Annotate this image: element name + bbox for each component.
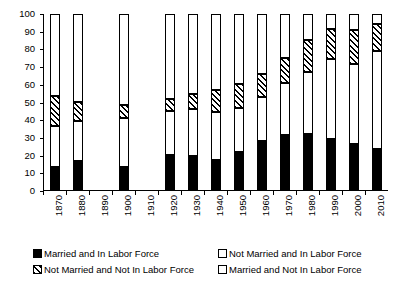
bar-group bbox=[188, 14, 198, 191]
y-axis-tick-mark bbox=[40, 49, 44, 50]
y-axis-tick-label: 50 bbox=[24, 98, 35, 108]
bar-segment bbox=[165, 111, 175, 154]
bar-segment bbox=[234, 84, 244, 108]
y-axis-tick-label: 100 bbox=[19, 9, 35, 19]
y-axis-tick-label: 40 bbox=[24, 115, 35, 125]
bar-segment bbox=[280, 14, 290, 58]
y-axis-tick-mark bbox=[40, 156, 44, 157]
bar-group bbox=[73, 14, 83, 191]
x-axis-tick-mark bbox=[66, 191, 67, 195]
x-axis-tick-label: 1930 bbox=[192, 195, 202, 216]
x-axis-tick-mark bbox=[296, 191, 297, 195]
legend-item-not-married-in-labor-force: Not Married and In Labor Force bbox=[218, 246, 362, 261]
bar-group bbox=[211, 14, 221, 191]
bar-segment bbox=[165, 14, 175, 99]
x-axis-tick-mark bbox=[204, 191, 205, 195]
bar-segment bbox=[119, 167, 129, 191]
bar-segment bbox=[326, 59, 336, 139]
x-axis-tick-mark bbox=[273, 191, 274, 195]
x-axis-labels: 1870188018901900191019201930194019501960… bbox=[43, 193, 388, 239]
legend-row-2: Not Married and Not In Labor Force Marri… bbox=[28, 262, 378, 277]
bar-segment bbox=[349, 14, 359, 30]
bar-segment bbox=[257, 141, 267, 191]
x-axis-tick-mark bbox=[135, 191, 136, 195]
y-axis-tick-mark bbox=[40, 32, 44, 33]
bar-group bbox=[303, 14, 313, 191]
bar-segment bbox=[326, 14, 336, 29]
bar-group bbox=[257, 14, 267, 191]
bar-segment bbox=[326, 29, 336, 59]
y-axis-tick-label: 70 bbox=[24, 62, 35, 72]
bar-group bbox=[234, 14, 244, 191]
x-axis-tick-label: 1960 bbox=[261, 195, 271, 216]
x-axis-tick-mark bbox=[319, 191, 320, 195]
bar-segment bbox=[372, 24, 382, 51]
x-axis-tick-label: 2000 bbox=[353, 195, 363, 216]
y-axis-tick-label: 0 bbox=[30, 186, 35, 196]
bar-segment bbox=[165, 155, 175, 191]
legend-swatch-solid-black-icon bbox=[33, 249, 42, 258]
bar-group bbox=[165, 14, 175, 191]
bar-group bbox=[50, 14, 60, 191]
bar-segment bbox=[188, 156, 198, 191]
bar-segment bbox=[50, 14, 60, 96]
stacked-bar-chart: 0102030405060708090100 18701880189019001… bbox=[0, 0, 403, 284]
legend-item-not-married-not-in-labor-force: Not Married and Not In Labor Force bbox=[33, 262, 194, 277]
x-axis-tick-mark bbox=[158, 191, 159, 195]
bar-segment bbox=[349, 30, 359, 64]
x-axis-tick-mark bbox=[365, 191, 366, 195]
bar-segment bbox=[234, 152, 244, 191]
bar-segment bbox=[372, 14, 382, 24]
y-axis-tick-mark bbox=[40, 138, 44, 139]
x-axis-tick-label: 1870 bbox=[54, 195, 64, 216]
legend-label: Married and Not In Labor Force bbox=[229, 264, 362, 275]
bar-group bbox=[372, 14, 382, 191]
y-axis-tick-mark bbox=[40, 14, 44, 15]
x-axis-tick-mark bbox=[227, 191, 228, 195]
y-axis-tick-label: 10 bbox=[24, 169, 35, 179]
bar-group bbox=[349, 14, 359, 191]
y-axis-tick-mark bbox=[40, 103, 44, 104]
legend-row-1: Married and In Labor Force Not Married a… bbox=[28, 246, 378, 261]
x-axis-tick-label: 1890 bbox=[100, 195, 110, 216]
legend-swatch-white-icon bbox=[218, 265, 227, 274]
x-axis-tick-label: 1940 bbox=[215, 195, 225, 216]
y-axis-tick-label: 20 bbox=[24, 151, 35, 161]
bar-segment bbox=[188, 109, 198, 156]
x-axis-tick-label: 1920 bbox=[169, 195, 179, 216]
legend-label: Married and In Labor Force bbox=[44, 248, 159, 259]
bar-segment bbox=[280, 58, 290, 83]
x-axis-tick-label: 1880 bbox=[77, 195, 87, 216]
bar-segment bbox=[280, 135, 290, 191]
bar-segment bbox=[73, 14, 83, 102]
bar-group bbox=[280, 14, 290, 191]
bar-segment bbox=[188, 94, 198, 109]
bar-segment bbox=[257, 74, 267, 97]
bar-group bbox=[119, 14, 129, 191]
legend-label: Not Married and Not In Labor Force bbox=[44, 264, 194, 275]
bar-segment bbox=[188, 14, 198, 94]
bar-segment bbox=[303, 134, 313, 191]
bar-segment bbox=[119, 118, 129, 167]
legend-label: Not Married and In Labor Force bbox=[229, 248, 362, 259]
bar-segment bbox=[211, 14, 221, 90]
bar-segment bbox=[349, 144, 359, 191]
bar-segment bbox=[372, 51, 382, 149]
bar-segment bbox=[73, 102, 83, 121]
bar-segment bbox=[326, 139, 336, 191]
bar-segment bbox=[73, 121, 83, 161]
bar-segment bbox=[50, 126, 60, 168]
bar-segment bbox=[119, 105, 129, 118]
bar-segment bbox=[280, 83, 290, 135]
y-axis-tick-label: 90 bbox=[24, 27, 35, 37]
y-axis-tick-mark bbox=[40, 173, 44, 174]
x-axis-tick-label: 2010 bbox=[376, 195, 386, 216]
y-axis-tick-mark bbox=[40, 67, 44, 68]
x-axis-tick-mark bbox=[342, 191, 343, 195]
x-axis-tick-label: 1910 bbox=[146, 195, 156, 216]
y-axis-tick-mark bbox=[40, 120, 44, 121]
bar-segment bbox=[50, 167, 60, 191]
bar-segment bbox=[119, 14, 129, 105]
bar-segment bbox=[50, 96, 60, 125]
x-axis-tick-mark bbox=[181, 191, 182, 195]
